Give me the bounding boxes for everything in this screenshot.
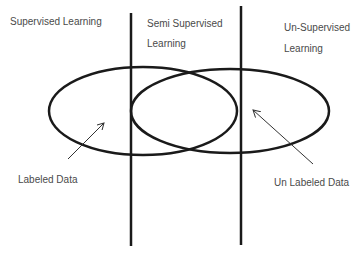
annotation-labeled-data: Labeled Data xyxy=(18,174,78,186)
unlabeled-data-ellipse xyxy=(131,69,329,153)
region-label-semi-line1: Semi Supervised xyxy=(147,18,223,30)
region-label-supervised: Supervised Learning xyxy=(10,16,102,28)
region-label-semi-line2: Learning xyxy=(147,38,186,50)
unlabeled-arrow-icon xyxy=(253,110,313,164)
venn-diagram: Supervised Learning Semi Supervised Lear… xyxy=(0,0,359,259)
region-label-unsupervised-line2: Learning xyxy=(284,43,323,55)
labeled-data-ellipse xyxy=(49,67,237,155)
annotation-unlabeled-data: Un Labeled Data xyxy=(274,177,349,189)
region-label-unsupervised-line1: Un-Supervised xyxy=(284,22,350,34)
